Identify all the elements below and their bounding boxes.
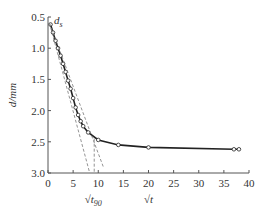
data-point xyxy=(69,87,73,91)
y-tick-label: 2.5 xyxy=(31,136,45,148)
measured-series xyxy=(49,23,241,151)
measured-curve xyxy=(51,24,239,149)
data-point xyxy=(86,131,90,135)
t90-annotation: √t90 xyxy=(85,193,102,208)
x-tick-label: 10 xyxy=(93,177,105,189)
data-point xyxy=(96,138,100,142)
data-point xyxy=(237,147,241,151)
x-tick-label: 35 xyxy=(218,177,230,189)
dashed-construction-line xyxy=(50,23,90,173)
x-tick-label: 15 xyxy=(118,177,130,189)
x-tick-label: 0 xyxy=(45,177,51,189)
x-tick-label: 30 xyxy=(193,177,205,189)
x-tick-label: 5 xyxy=(70,177,76,189)
data-point xyxy=(117,143,121,147)
data-point xyxy=(71,96,75,100)
consolidation-chart: 05101520253035400.51.01.52.02.53.0d/mm√t… xyxy=(0,0,270,214)
data-point xyxy=(66,79,70,83)
y-tick-label: 2.0 xyxy=(31,105,45,117)
data-point xyxy=(79,119,83,123)
ds-annotation: ds xyxy=(54,14,63,29)
x-tick-label: 25 xyxy=(168,177,180,189)
data-point xyxy=(51,31,55,35)
x-tick-label: 40 xyxy=(244,177,256,189)
y-tick-label: 1.0 xyxy=(31,42,45,54)
y-tick-label: 1.5 xyxy=(31,73,45,85)
data-point xyxy=(81,124,85,128)
y-axis-label: d/mm xyxy=(6,83,18,108)
y-tick-label: 3.0 xyxy=(31,167,45,179)
y-tick-label: 0.5 xyxy=(31,11,45,23)
dashed-construction-line xyxy=(50,23,104,167)
x-axis-label: √t xyxy=(144,193,154,205)
data-point xyxy=(232,147,236,151)
data-point xyxy=(147,146,151,150)
data-point xyxy=(74,106,78,110)
axes: 05101520253035400.51.01.52.02.53.0 xyxy=(31,11,255,189)
x-tick-label: 20 xyxy=(143,177,155,189)
data-point xyxy=(76,113,80,117)
